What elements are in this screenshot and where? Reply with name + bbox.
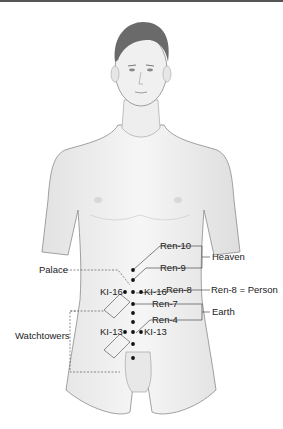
label-ki-13-left: KI-13 [100, 327, 123, 337]
label-ren-10: Ren-10 [160, 241, 191, 251]
body-illustration [0, 0, 283, 429]
label-ren-7: Ren-7 [152, 299, 178, 309]
label-watchtowers: Watchtowers [15, 331, 70, 341]
label-earth: Earth [212, 307, 235, 317]
label-ki-13-right: KI-13 [144, 327, 167, 337]
label-ren-9: Ren-9 [160, 263, 186, 273]
label-ki-16-left: KI-16 [100, 287, 123, 297]
label-person: Ren-8 = Person [211, 285, 278, 295]
label-ren-4: Ren-4 [152, 315, 178, 325]
label-ren-8: Ren-8 [166, 285, 192, 295]
genitals [125, 352, 151, 392]
label-ki-16-right: KI-16 [144, 287, 167, 297]
label-palace: Palace [39, 265, 68, 275]
label-heaven: Heaven [212, 252, 245, 262]
